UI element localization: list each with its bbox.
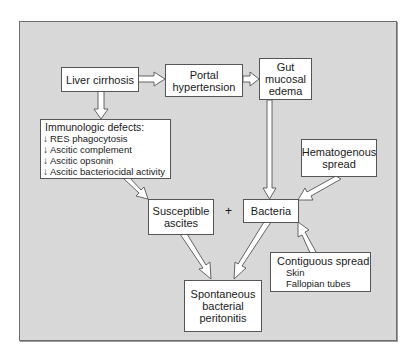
defect-item: ↓ Ascitic bacteriocidal activity — [45, 166, 165, 177]
defect-label: Ascitic complement — [50, 144, 132, 155]
node-label-line: hypertension — [173, 81, 236, 93]
node-contiguous-spread: Contiguous spread Skin Fallopian tubes — [270, 252, 371, 292]
arrow-contiguous-to-bacteria — [298, 222, 316, 255]
arrow-cirrhosis-to-portal — [138, 72, 165, 86]
plus-sign: + — [225, 204, 232, 218]
node-label-line: Spontaneous — [191, 288, 256, 300]
arrow-gut-to-bacteria — [263, 100, 276, 199]
defect-label: Ascitic opsonin — [50, 155, 113, 166]
defect-label: RES phagocytosis — [50, 133, 128, 144]
node-immunologic-defects: Immunologic defects: ↓ RES phagocytosis … — [40, 119, 171, 179]
node-hematogenous-spread: Hematogenous spread — [301, 139, 377, 177]
node-title: Contiguous spread — [277, 255, 369, 267]
defect-item: ↓ RES phagocytosis — [45, 133, 128, 144]
node-label-line: spread — [322, 158, 356, 170]
node-label: Liver cirrhosis — [66, 74, 134, 86]
node-liver-cirrhosis: Liver cirrhosis — [61, 67, 139, 92]
defect-label: Ascitic bacteriocidal activity — [50, 166, 165, 177]
node-label: Bacteria — [251, 205, 291, 217]
node-susceptible-ascites: Susceptible ascites — [148, 199, 214, 235]
node-label-line: Portal — [190, 69, 219, 81]
node-portal-hypertension: Portal hypertension — [165, 64, 243, 97]
down-arrow-icon: ↓ — [43, 144, 50, 155]
node-label-line: bacterial — [202, 300, 244, 312]
node-label-line: mucosal — [265, 73, 306, 85]
defect-item: ↓ Ascitic opsonin — [45, 155, 113, 166]
arrow-hematogenous-to-bacteria — [298, 176, 341, 200]
arrow-immunologic-to-ascites — [123, 178, 148, 199]
node-spontaneous-bacterial-peritonitis: Spontaneous bacterial peritonitis — [184, 280, 262, 332]
node-title: Immunologic defects: — [45, 121, 144, 133]
arrow-portal-to-gut — [243, 72, 259, 86]
sub-item: Fallopian tubes — [277, 278, 350, 289]
arrow-cirrhosis-to-immunologic — [94, 91, 108, 119]
node-gut-mucosal-edema: Gut mucosal edema — [259, 58, 312, 100]
down-arrow-icon: ↓ — [43, 133, 50, 144]
node-label-line: peritonitis — [199, 312, 246, 324]
node-label-line: ascites — [164, 217, 198, 229]
node-bacteria: Bacteria — [243, 199, 299, 223]
arrow-ascites-to-sbp — [180, 234, 211, 279]
node-label-line: Gut — [277, 61, 295, 73]
sub-item: Skin — [277, 267, 304, 278]
down-arrow-icon: ↓ — [43, 155, 50, 166]
node-label-line: edema — [269, 85, 303, 97]
down-arrow-icon: ↓ — [43, 166, 50, 177]
node-label-line: Hematogenous — [302, 146, 377, 158]
arrow-bacteria-to-sbp — [234, 222, 271, 279]
node-label-line: Susceptible — [153, 205, 210, 217]
defect-item: ↓ Ascitic complement — [45, 144, 132, 155]
